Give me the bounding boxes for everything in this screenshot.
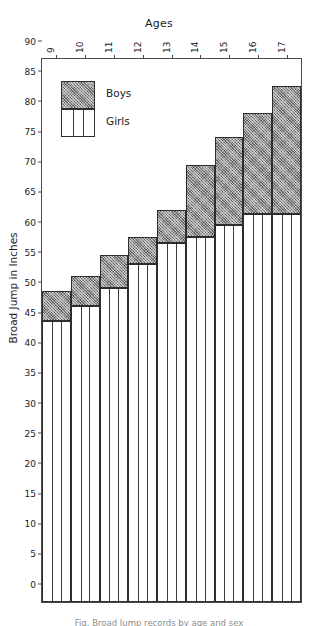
girls-rule — [196, 238, 197, 601]
y-tick-label: 0 — [30, 579, 36, 589]
legend-item-girls[interactable]: Girls — [61, 109, 171, 137]
y-tick-label: 75 — [25, 127, 36, 137]
bar-segment-girls-age-17[interactable] — [272, 214, 301, 602]
legend-swatch-boys — [61, 81, 95, 109]
y-tick-label: 65 — [25, 187, 36, 197]
x-tick-label: 14 — [190, 42, 200, 53]
x-tick-label: 11 — [104, 42, 114, 53]
x-tick-label: 17 — [277, 42, 287, 53]
y-tick-label: 60 — [25, 217, 36, 227]
bar-segment-boys-age-12[interactable] — [128, 237, 157, 264]
girls-rule — [205, 238, 206, 601]
legend-label-girls: Girls — [106, 115, 130, 127]
y-tick: 30 — [25, 393, 42, 412]
y-tick-label: 25 — [25, 428, 36, 438]
figure-caption: Fig. Broad Jump records by age and sex — [0, 618, 318, 626]
y-tick-label: 10 — [25, 519, 36, 529]
y-tick-mark — [38, 41, 42, 42]
y-tick: 25 — [25, 423, 42, 442]
bar-segment-boys-age-15[interactable] — [215, 137, 244, 224]
y-tick-label: 80 — [25, 96, 36, 106]
bar-segment-girls-age-15[interactable] — [215, 225, 244, 602]
y-tick: 10 — [25, 513, 42, 532]
y-tick: 35 — [25, 362, 42, 381]
y-tick: 75 — [25, 121, 42, 140]
girls-rule — [83, 110, 84, 136]
bar-segment-boys-age-14[interactable] — [186, 165, 215, 237]
y-tick: 50 — [25, 272, 42, 291]
y-tick-label: 30 — [25, 398, 36, 408]
chart-title: Ages — [0, 17, 318, 30]
bar-group-age-10[interactable] — [71, 59, 100, 602]
bar-segment-girls-age-9[interactable] — [42, 321, 71, 602]
y-tick-label: 45 — [25, 308, 36, 318]
y-tick-label: 20 — [25, 458, 36, 468]
figure: Ages Broad Jump in Inches 90858075706560… — [0, 0, 318, 626]
y-tick: 60 — [25, 212, 42, 231]
y-tick: 45 — [25, 302, 42, 321]
girls-rule — [176, 244, 177, 601]
bar-group-age-16[interactable] — [243, 59, 272, 602]
y-tick-label: 5 — [30, 549, 36, 559]
bar-segment-girls-age-16[interactable] — [243, 214, 272, 602]
y-tick: 15 — [25, 483, 42, 502]
x-tick-label: 16 — [248, 42, 258, 53]
y-tick-label: 70 — [25, 157, 36, 167]
y-axis-title: Broad Jump in Inches — [7, 188, 19, 388]
y-tick: 80 — [25, 91, 42, 110]
girls-rule — [52, 322, 53, 601]
x-tick-label: 9 — [46, 47, 56, 53]
bar-group-age-17[interactable] — [272, 59, 301, 602]
y-tick-label: 55 — [25, 247, 36, 257]
bar-segment-girls-age-10[interactable] — [71, 306, 100, 602]
bar-segment-boys-age-17[interactable] — [272, 86, 301, 214]
plot-area: 908580757065605550454035302520151050 910… — [41, 58, 302, 603]
bar-group-age-14[interactable] — [186, 59, 215, 602]
girls-rule — [233, 226, 234, 601]
bar-group-age-9[interactable] — [42, 59, 71, 602]
girls-rule — [118, 289, 119, 601]
bar-group-age-12[interactable] — [128, 59, 157, 602]
legend-item-boys[interactable]: Boys — [61, 81, 171, 109]
y-tick: 55 — [25, 242, 42, 261]
plot-inner: 908580757065605550454035302520151050 910… — [42, 59, 301, 602]
x-tick-label: 12 — [133, 42, 143, 53]
bar-segment-girls-age-12[interactable] — [128, 264, 157, 602]
y-tick: 20 — [25, 453, 42, 472]
y-tick-label: 40 — [25, 338, 36, 348]
legend-label-boys: Boys — [106, 87, 131, 99]
girls-rule — [253, 215, 254, 601]
bar-segment-boys-age-13[interactable] — [157, 210, 186, 243]
girls-rule — [81, 307, 82, 601]
bar-group-age-11[interactable] — [100, 59, 129, 602]
girls-rule — [147, 265, 148, 601]
bar-segment-boys-age-10[interactable] — [71, 276, 100, 306]
bar-group-age-15[interactable] — [215, 59, 244, 602]
y-tick: 5 — [30, 543, 42, 562]
bar-segment-boys-age-11[interactable] — [100, 255, 129, 288]
y-tick: 70 — [25, 151, 42, 170]
legend-swatch-girls — [61, 109, 95, 137]
bar-segment-girls-age-11[interactable] — [100, 288, 129, 602]
y-tick-label: 15 — [25, 489, 36, 499]
y-tick-label: 85 — [25, 66, 36, 76]
x-tick-label: 15 — [219, 42, 229, 53]
girls-rule — [138, 265, 139, 601]
girls-rule — [167, 244, 168, 601]
bar-segment-girls-age-13[interactable] — [157, 243, 186, 602]
bar-segment-boys-age-9[interactable] — [42, 291, 71, 321]
girls-rule — [61, 322, 62, 601]
girls-rule — [73, 110, 74, 136]
y-tick: 90 — [25, 31, 42, 50]
girls-rule — [89, 307, 90, 601]
x-tick-label: 10 — [75, 42, 85, 53]
y-tick: 85 — [25, 61, 42, 80]
bar-group-age-13[interactable] — [157, 59, 186, 602]
girls-rule — [262, 215, 263, 601]
girls-rule — [109, 289, 110, 601]
girls-rule — [282, 215, 283, 601]
y-tick: 65 — [25, 181, 42, 200]
bar-segment-girls-age-14[interactable] — [186, 237, 215, 602]
legend: BoysGirls — [61, 81, 171, 137]
bar-segment-boys-age-16[interactable] — [243, 113, 272, 214]
